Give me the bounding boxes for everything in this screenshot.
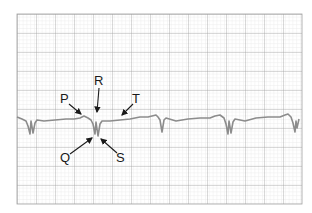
- label-r-text: R: [94, 73, 103, 88]
- label-p-text: P: [60, 91, 69, 106]
- label-q-text: Q: [60, 150, 70, 165]
- label-t-text: T: [132, 91, 140, 106]
- label-s-text: S: [116, 150, 125, 165]
- ecg-grid: [17, 14, 302, 204]
- ecg-diagram: R P T Q S: [0, 0, 312, 213]
